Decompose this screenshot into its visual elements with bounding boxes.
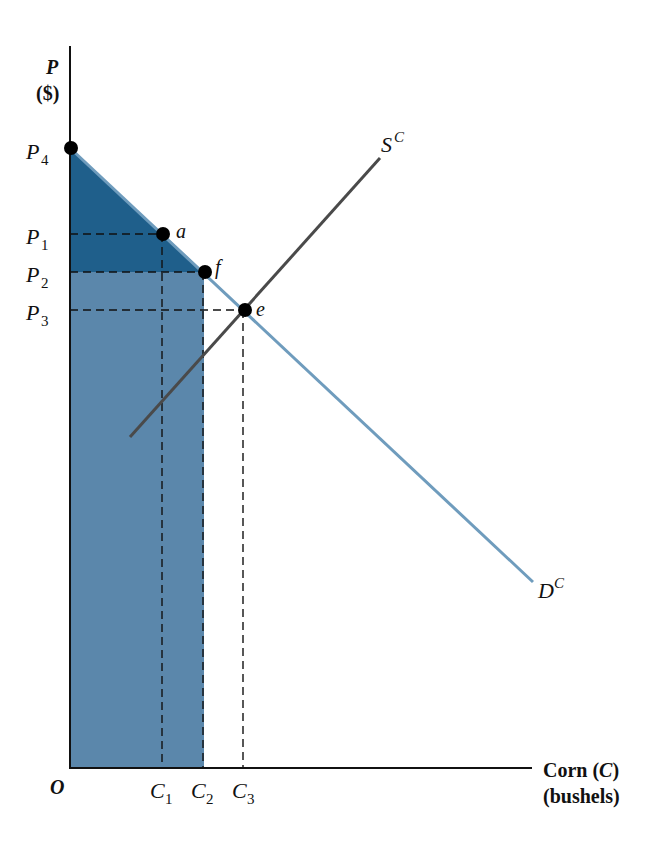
expenditure-rectangle (70, 272, 204, 768)
svg-text:C: C (150, 778, 165, 803)
y-tick-p3: P 3 (25, 300, 49, 329)
x-axis-label: Corn (C) (543, 759, 619, 782)
label-f: f (215, 256, 223, 279)
y-tick-p4: P 4 (25, 139, 49, 168)
svg-text:4: 4 (41, 152, 49, 168)
svg-text:C: C (232, 778, 247, 803)
svg-text:P: P (25, 139, 39, 164)
svg-text:C: C (554, 575, 565, 591)
svg-text:P: P (25, 262, 39, 287)
y-axis-label: P (45, 56, 59, 78)
svg-text:P: P (25, 224, 39, 249)
origin-label: O (50, 776, 64, 798)
svg-text:S: S (381, 132, 392, 157)
x-tick-c3: C 3 (232, 778, 255, 807)
svg-text:D: D (537, 578, 554, 603)
svg-text:1: 1 (165, 791, 173, 807)
svg-text:2: 2 (206, 791, 214, 807)
svg-text:C: C (394, 129, 405, 145)
x-tick-c2: C 2 (191, 778, 214, 807)
y-tick-p2: P 2 (25, 262, 49, 291)
point-f (198, 265, 212, 279)
supply-demand-chart: P ($) P 4 P 1 P 2 P 3 O C 1 C 2 C 3 Corn… (0, 0, 669, 845)
svg-text:P: P (25, 300, 39, 325)
supply-label: S C (381, 129, 405, 157)
label-a: a (176, 220, 186, 242)
demand-label: D C (537, 575, 565, 603)
point-a (156, 227, 170, 241)
point-p4 (64, 141, 78, 155)
x-tick-c1: C 1 (150, 778, 173, 807)
y-tick-p1: P 1 (25, 224, 49, 253)
svg-text:C: C (191, 778, 206, 803)
svg-text:2: 2 (41, 275, 49, 291)
svg-text:3: 3 (41, 313, 49, 329)
x-axis-unit: (bushels) (543, 785, 620, 808)
svg-text:1: 1 (41, 237, 49, 253)
label-e: e (256, 298, 265, 320)
point-e (238, 303, 252, 317)
y-axis-unit: ($) (36, 82, 59, 105)
svg-text:3: 3 (247, 791, 255, 807)
